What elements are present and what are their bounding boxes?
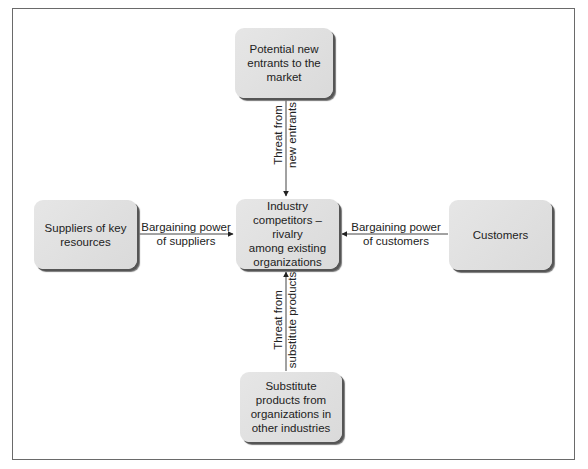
node-industry-competitors: Industry competitors – rivalry among exi… bbox=[236, 199, 339, 269]
label-bargaining-customers: Bargaining power of customers bbox=[344, 220, 448, 248]
label-threat-new-entrants: Threat from new entrants bbox=[271, 85, 301, 185]
node-substitutes: Substitute products from organizations i… bbox=[240, 372, 342, 442]
label-bargaining-suppliers: Bargaining power of suppliers bbox=[139, 220, 233, 248]
label-threat-substitutes: Threat from substitute products bbox=[271, 260, 301, 380]
node-customers: Customers bbox=[449, 200, 552, 270]
node-suppliers: Suppliers of key resources bbox=[34, 200, 137, 269]
